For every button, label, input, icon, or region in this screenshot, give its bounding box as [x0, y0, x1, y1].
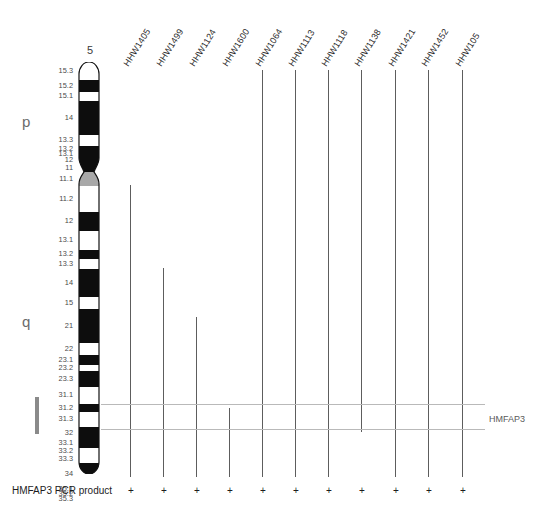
hmfap3-boundary-line — [101, 429, 485, 430]
chromosome-band — [77, 250, 101, 259]
band-label: 13.1 — [59, 236, 73, 244]
chromosome-band — [77, 259, 101, 269]
chromosome-band — [77, 80, 101, 92]
marker-label-hhw1113[interactable]: HHW1113 — [287, 28, 317, 68]
chromosome-band — [77, 269, 101, 297]
chromosome-band — [77, 365, 101, 371]
chromosome-band — [77, 212, 101, 231]
marker-label-hhw1064[interactable]: HHW1064 — [254, 27, 285, 68]
band-label-column: 15.315.215.11413.313.213.1121111.111.212… — [0, 0, 73, 515]
chromosome-band — [77, 92, 101, 101]
locus-indicator-bar — [35, 397, 39, 434]
marker-label-hhw1499[interactable]: HHW1499 — [155, 27, 186, 68]
band-label: 12 — [65, 217, 73, 225]
pcr-result-hhw1138: + — [355, 485, 369, 496]
band-label: 11 — [65, 164, 73, 172]
marker-label-hhw1452[interactable]: HHW1452 — [420, 27, 451, 68]
marker-line-hhw1600[interactable] — [229, 408, 230, 477]
band-label: 34 — [65, 470, 73, 478]
pcr-product-row-label: HMFAP3 PCR product — [12, 485, 112, 496]
band-label: 23.3 — [59, 375, 73, 383]
chromosome-band — [77, 387, 101, 404]
pcr-result-hhw1499: + — [157, 485, 171, 496]
band-label: 13.3 — [59, 136, 73, 144]
chromosome-band — [77, 309, 101, 343]
marker-label-hhw1124[interactable]: HHW1124 — [188, 27, 219, 68]
band-label: 33.3 — [59, 455, 73, 463]
chromosome-band — [77, 371, 101, 387]
pcr-result-hhw1113: + — [289, 485, 303, 496]
pcr-result-hhw1600: + — [223, 485, 237, 496]
chromosome-band — [77, 186, 101, 212]
band-label: 23.2 — [59, 364, 73, 372]
chromosome-band — [77, 297, 101, 309]
marker-label-hhw1118[interactable]: HHW1118 — [320, 28, 350, 68]
band-label: 15.2 — [59, 82, 73, 90]
marker-line-hhw1499[interactable] — [163, 268, 164, 477]
band-label: 21 — [65, 322, 73, 330]
chromosome-band — [77, 448, 101, 455]
chromosome-band — [77, 412, 101, 427]
marker-line-hhw1064[interactable] — [262, 70, 263, 477]
chromosome-ideogram[interactable] — [77, 62, 101, 474]
chromosome-band — [77, 146, 101, 152]
chromosome-band — [77, 152, 101, 157]
pcr-result-hhw105: + — [456, 485, 470, 496]
band-label: 15 — [65, 299, 73, 307]
marker-line-hhw1421[interactable] — [395, 70, 396, 477]
band-label: 15.3 — [59, 67, 73, 75]
pcr-result-hhw1452: + — [422, 485, 436, 496]
marker-line-hhw1138[interactable] — [361, 70, 362, 432]
marker-label-hhw1138[interactable]: HHW1138 — [353, 27, 384, 68]
marker-label-hhw1600[interactable]: HHW1600 — [221, 27, 252, 68]
gene-label-hmfap3: HMFAP3 — [489, 414, 525, 424]
pcr-result-hhw1124: + — [190, 485, 204, 496]
band-label: 31.1 — [59, 391, 73, 399]
marker-line-hhw1113[interactable] — [295, 70, 296, 477]
hmfap3-boundary-line — [101, 404, 485, 405]
pcr-result-hhw1118: + — [322, 485, 336, 496]
pcr-result-hhw1405: + — [124, 485, 138, 496]
chromosome-band — [77, 404, 101, 412]
chromosome-band — [77, 62, 101, 80]
marker-label-hhw105[interactable]: HHW105 — [454, 31, 482, 68]
figure-canvas: 5 p q 15.315.215.11413.313.213.1121111.1… — [0, 0, 551, 515]
pcr-result-hhw1421: + — [389, 485, 403, 496]
marker-line-hhw1124[interactable] — [196, 317, 197, 477]
marker-line-hhw1405[interactable] — [130, 185, 131, 477]
band-label: 11.1 — [59, 175, 73, 183]
band-label: 31.2 — [59, 404, 73, 412]
band-label: 14 — [65, 114, 73, 122]
chromosome-band — [77, 439, 101, 448]
chromosome-band — [77, 343, 101, 355]
band-label: 32 — [65, 429, 73, 437]
chromosome-band — [77, 455, 101, 463]
band-label: 13.2 — [59, 250, 73, 258]
band-label: 15.1 — [59, 92, 73, 100]
band-label: 22 — [65, 345, 73, 353]
pcr-result-hhw1064: + — [256, 485, 270, 496]
chromosome-band — [77, 135, 101, 146]
chromosome-band — [77, 355, 101, 365]
marker-line-hhw105[interactable] — [462, 70, 463, 477]
chromosome-number-label: 5 — [70, 44, 110, 56]
marker-line-hhw1452[interactable] — [428, 70, 429, 477]
chromosome-band — [77, 231, 101, 250]
band-label: 14 — [65, 279, 73, 287]
chromosome-band — [77, 427, 101, 439]
marker-label-hhw1421[interactable]: HHW1421 — [387, 27, 418, 68]
band-label: 13.3 — [59, 260, 73, 268]
band-label: 11.2 — [59, 195, 73, 203]
ideogram-svg — [77, 62, 101, 474]
chromosome-band — [77, 101, 101, 135]
marker-line-hhw1118[interactable] — [328, 70, 329, 477]
band-label: 31.3 — [59, 415, 73, 423]
marker-label-hhw1405[interactable]: HHW1405 — [122, 27, 153, 68]
